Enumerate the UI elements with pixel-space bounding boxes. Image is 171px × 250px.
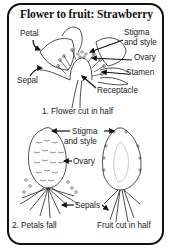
label-stigma-style-top-2: and style [124,38,157,48]
label-ovary-bottom: Ovary [73,157,95,167]
flower-cut-in-half-drawing [40,27,130,108]
label-sepal: Sepal [17,76,38,86]
label-stigma-style-top-1: Stigma [124,28,149,38]
fruit-cut-in-half-drawing [103,128,142,222]
caption-petals-fall: 2. Petals fall [12,221,57,230]
label-stamen: Stamen [126,68,154,78]
label-ovary-top: Ovary [134,53,156,63]
label-stigma-style-bottom-1: Stigma [72,127,97,137]
label-receptacle: Receptacle [97,86,138,96]
caption-fruit-cut-in-half: Fruit cut in half [97,221,151,230]
label-stigma-style-bottom-2: and style [64,137,97,147]
caption-flower-cut-in-half: 1. Flower cut in half [42,107,113,116]
label-petal: Petal [20,29,39,39]
label-sepals: Sepals [75,201,100,211]
